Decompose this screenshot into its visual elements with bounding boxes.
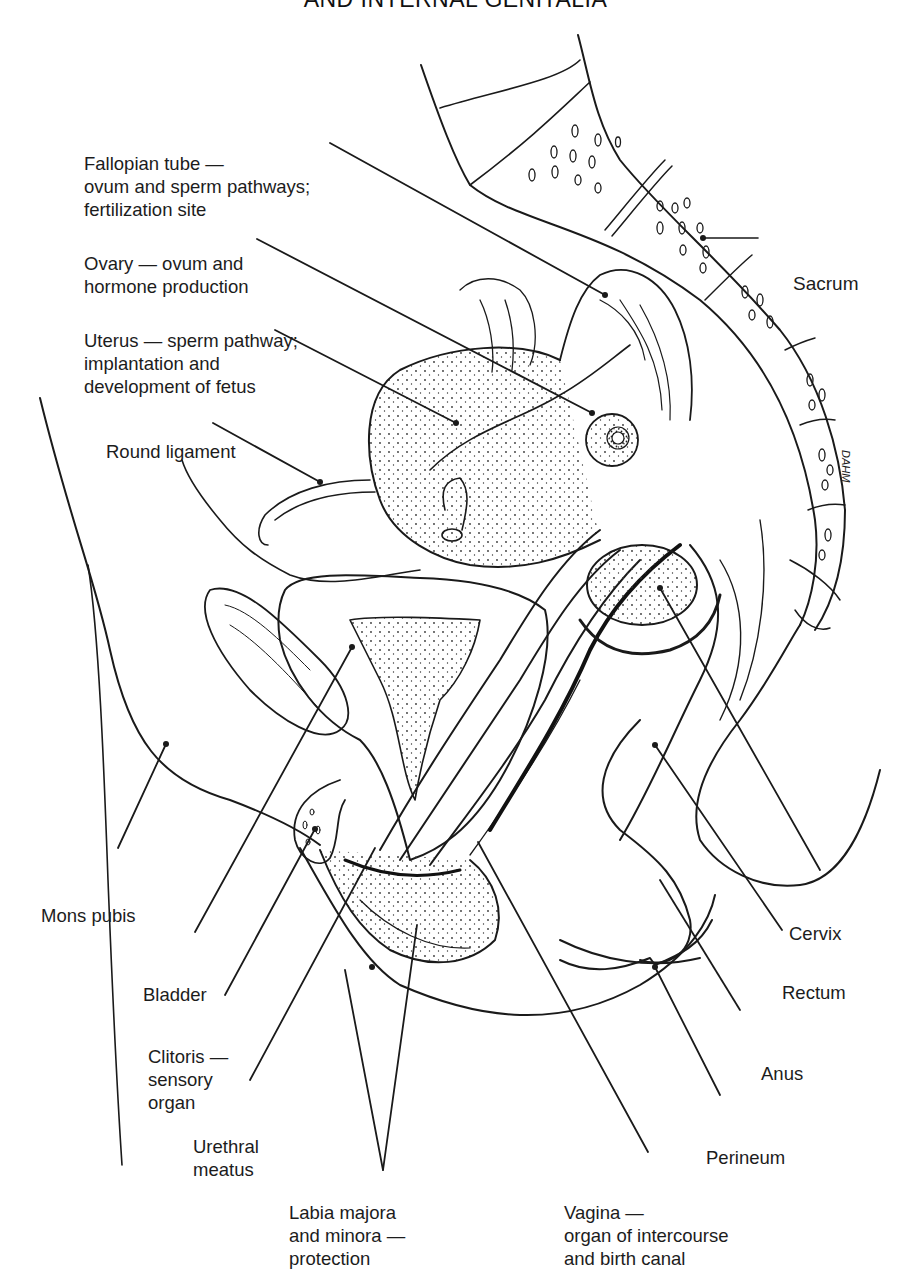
label-anus: Anus xyxy=(761,1016,803,1108)
bladder-illustration xyxy=(278,575,547,860)
pubic-bone-illustration xyxy=(205,588,348,734)
label-rectum: Rectum xyxy=(782,935,846,1027)
label-round-ligament: Round ligament xyxy=(106,394,236,486)
ovary-illustration xyxy=(586,414,638,466)
labia-illustration xyxy=(320,850,499,962)
rectum-illustration xyxy=(580,520,764,840)
label-perineum: Perineum xyxy=(706,1100,785,1192)
body-contour xyxy=(40,398,715,1165)
label-mons-pubis: Mons pubis xyxy=(41,858,136,950)
label-labia: Labia majoraand minora —protection xyxy=(289,1155,405,1273)
label-sacrum: Sacrum xyxy=(793,226,858,318)
label-vagina: Vagina —organ of intercourseand birth ca… xyxy=(564,1155,729,1273)
label-urethral-meatus: Urethralmeatus xyxy=(193,1089,259,1204)
artist-signature: DAHM xyxy=(840,450,852,483)
